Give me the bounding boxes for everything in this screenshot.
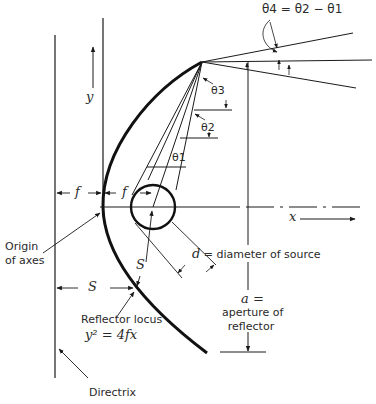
x-axis-label: x [289,210,296,223]
theta1-label: θ1 [172,151,186,164]
reflected-ray-horiz [202,60,372,62]
diameter-label: d = diameter of source [192,247,321,261]
reflector-locus-label: Reflector locus [81,313,162,326]
origin-label-line2: of axes [5,254,45,267]
theta2-label: θ2 [201,121,215,134]
theta4-curve-2 [263,20,277,52]
origin-label-line1: Origin [5,240,38,253]
theta4-curve [270,22,277,48]
s-diagonal-label: S [136,258,145,271]
s-diag-arrow-b [137,276,140,286]
aperture-label-line1: aperture of [222,306,280,319]
y-axis-label: y [86,90,93,103]
directrix-label: Directrix [89,386,136,399]
a-symbol-label: a = [241,292,264,305]
theta2-arc-arrow [195,114,205,120]
ray-1 [132,62,202,195]
origin-pointer [43,213,100,253]
ray-2 [153,62,202,207]
f-left-label: f [75,185,80,198]
theta4-equation-label: θ4 = θ2 − θ1 [262,3,342,16]
f-right-label: f [122,185,127,198]
s-horizontal-label: S [88,280,97,293]
diameter-arrow-2 [178,265,185,273]
reflector-equation-label: y² = 4fx [85,328,137,341]
theta3-label: θ3 [211,84,225,97]
diameter-arrow-1 [206,265,214,272]
d-symbol: d [192,246,200,261]
reflected-ray-up [202,33,353,62]
diagram-canvas [0,0,376,404]
d-description: = diameter of source [204,248,321,261]
directrix-pointer [59,349,88,378]
aperture-label-line2: reflector [222,320,280,333]
